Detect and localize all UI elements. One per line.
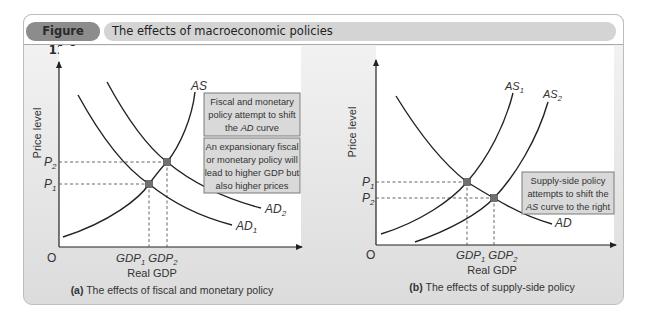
origin-label-b: O	[366, 248, 375, 262]
caption-b: (b) The effects of supply-side policy	[409, 281, 575, 293]
p1-tick-a: P1	[44, 177, 56, 193]
svg-text:attempts to shift the: attempts to shift the	[527, 189, 608, 199]
caption-a: (a) The effects of fiscal and monetary p…	[71, 284, 274, 296]
svg-text:or monetary policy will: or monetary policy will	[206, 155, 297, 165]
annotation-box-a1: Fiscal and monetary policy attempt to sh…	[204, 93, 300, 136]
plot-area-b	[376, 46, 614, 245]
equilibrium-point-2-b	[491, 195, 498, 202]
gdp-ticks-b: GDP1 GDP2	[456, 249, 518, 264]
x-axis-label-a: Real GDP	[127, 267, 177, 279]
svg-text:AS curve to the right: AS curve to the right	[525, 202, 611, 212]
gdp-ticks-a: GDP1 GDP2	[116, 252, 178, 267]
svg-text:policy attempt to shift: policy attempt to shift	[208, 110, 296, 120]
ad-label-b: AD	[554, 216, 572, 230]
svg-text:also higher prices: also higher prices	[216, 181, 289, 191]
panel-a: AS AD2 AD1 P2 P1 GDP1 GDP2 O Real GDP Pr…	[31, 46, 302, 296]
annotation-box-b1: Supply-side policy attempts to shift the…	[522, 172, 614, 214]
y-axis-label-b: Price level	[346, 107, 358, 158]
annotation-box-a2: An expansionary fiscal or monetary polic…	[204, 138, 300, 193]
origin-label-a: O	[47, 251, 56, 265]
svg-text:Fiscal and monetary: Fiscal and monetary	[210, 97, 294, 107]
equilibrium-point-2-a	[164, 159, 171, 166]
as-label-a: AS	[190, 79, 207, 93]
equilibrium-point-1-a	[146, 181, 153, 188]
p2-tick-b: P2	[362, 191, 375, 207]
svg-text:the AD curve: the AD curve	[225, 123, 279, 133]
x-axis-label-b: Real GDP	[467, 264, 517, 276]
p1-tick-b: P1	[362, 175, 374, 191]
p2-tick-a: P2	[44, 155, 57, 171]
figure-charts: AS AD2 AD1 P2 P1 GDP1 GDP2 O Real GDP Pr…	[0, 0, 646, 319]
svg-text:An expansionary fiscal: An expansionary fiscal	[205, 142, 298, 152]
svg-text:lead to higher GDP but: lead to higher GDP but	[205, 168, 300, 178]
equilibrium-point-1-b	[464, 179, 471, 186]
svg-text:Supply-side policy: Supply-side policy	[531, 176, 606, 186]
y-axis-label-a: Price level	[31, 108, 43, 159]
panel-b: AS1 AS2 AD P1 P2 GDP1 GDP2 O Real GDP Pr…	[346, 46, 616, 293]
